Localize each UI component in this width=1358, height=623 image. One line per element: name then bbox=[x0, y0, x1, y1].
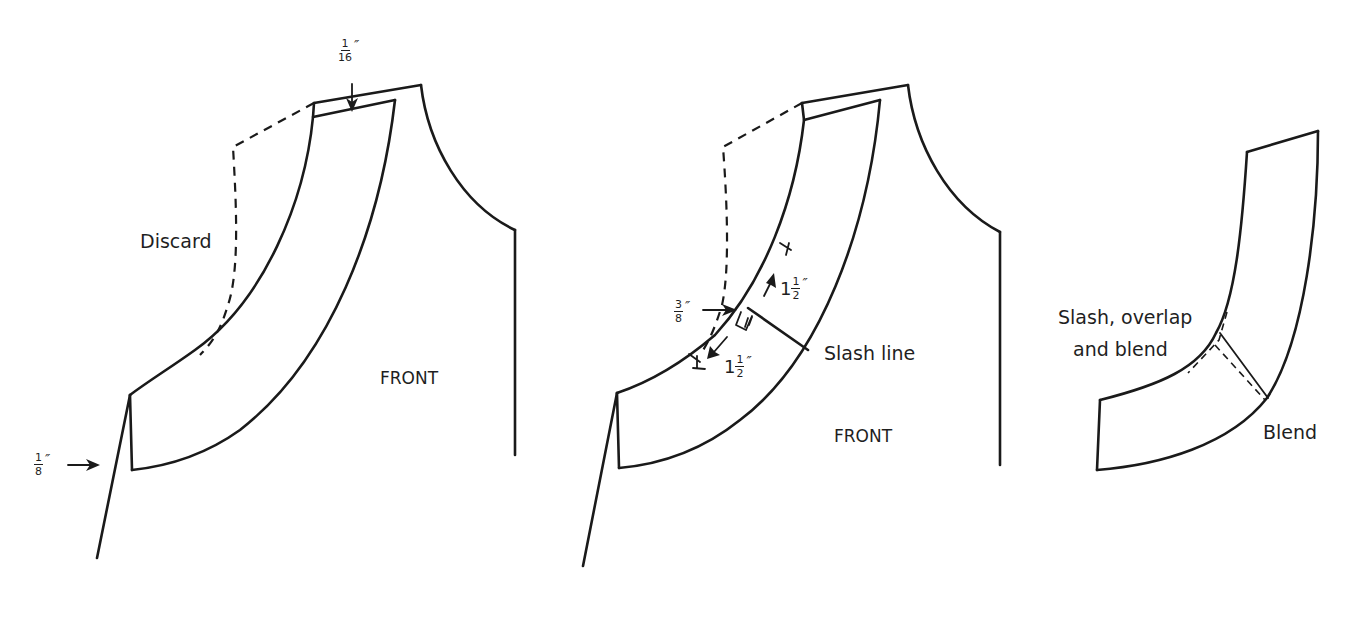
fraction-whole: 1 bbox=[780, 278, 791, 299]
tick-mark-lower bbox=[689, 354, 705, 369]
discard-dashed-outline bbox=[200, 103, 314, 355]
fraction-whole: 1 bbox=[724, 356, 735, 377]
label-slash-overlap-line2: and blend bbox=[1073, 340, 1168, 359]
armhole-curve bbox=[421, 85, 515, 230]
measurement-overlap-amount: 3 8 ″ bbox=[674, 299, 690, 324]
facing-top-edge bbox=[804, 100, 880, 120]
facing-bottom-edge bbox=[617, 393, 619, 468]
fraction-denominator: 2 bbox=[792, 289, 799, 301]
fraction-unit: ″ bbox=[685, 298, 690, 314]
label-blend: Blend bbox=[1263, 423, 1317, 442]
facing-outer-edge bbox=[1097, 131, 1318, 470]
measurement-upper-distance: 1 1 2 ″ bbox=[780, 276, 808, 301]
fraction-unit: ″ bbox=[802, 275, 807, 291]
slash-line bbox=[748, 308, 808, 350]
arrow-right-icon bbox=[68, 459, 100, 471]
shoulder-line bbox=[314, 85, 421, 103]
fraction-numerator: 3 bbox=[674, 299, 683, 312]
armhole-curve bbox=[908, 85, 1000, 232]
tick-mark-upper bbox=[780, 243, 791, 255]
facing-top-edge bbox=[1247, 131, 1318, 152]
label-slash-line: Slash line bbox=[824, 344, 915, 363]
center-front-line bbox=[97, 395, 130, 558]
facing-inner-edge bbox=[1100, 152, 1247, 400]
fraction-unit: ″ bbox=[45, 451, 50, 467]
fraction-numerator: 1 bbox=[791, 276, 800, 289]
slash-line bbox=[1220, 333, 1268, 398]
facing-bottom-edge bbox=[130, 395, 132, 470]
arrow-up-icon bbox=[764, 273, 776, 296]
facing-bottom-edge bbox=[1097, 400, 1100, 470]
measurement-center-front-offset: 1 8 ″ bbox=[34, 452, 50, 477]
facing-outer-edge bbox=[132, 100, 395, 470]
fraction-unit: ″ bbox=[746, 353, 751, 369]
blend-dashed-line bbox=[1215, 345, 1265, 400]
figure-step-3 bbox=[1097, 131, 1318, 470]
label-discard: Discard bbox=[140, 232, 211, 251]
fraction-denominator: 2 bbox=[736, 367, 743, 379]
fraction-numerator: 1 bbox=[735, 354, 744, 367]
fraction-denominator: 8 bbox=[675, 312, 682, 324]
figure-step-2 bbox=[583, 85, 1000, 566]
fraction-unit: ″ bbox=[354, 37, 359, 53]
measurement-shoulder-offset: 1 16 ″ bbox=[338, 38, 359, 63]
figure-step-1 bbox=[68, 84, 515, 558]
label-slash-overlap-line1: Slash, overlap bbox=[1058, 308, 1192, 327]
fraction-denominator: 16 bbox=[338, 51, 352, 63]
label-front: FRONT bbox=[380, 370, 438, 387]
center-front-line bbox=[583, 393, 617, 566]
fraction-numerator: 1 bbox=[34, 452, 43, 465]
shoulder-line bbox=[802, 85, 908, 103]
measurement-lower-distance: 1 1 2 ″ bbox=[724, 354, 752, 379]
fraction-numerator: 1 bbox=[341, 38, 350, 51]
facing-outer-edge bbox=[619, 100, 880, 468]
fraction-denominator: 8 bbox=[35, 465, 42, 477]
label-front: FRONT bbox=[834, 428, 892, 445]
